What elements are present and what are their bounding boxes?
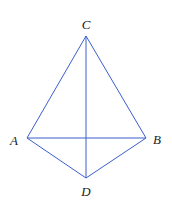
label-point-d: D <box>81 185 90 198</box>
segment-bd <box>86 138 146 178</box>
label-point-a: A <box>10 134 18 147</box>
segment-cb <box>86 36 146 138</box>
label-point-b: B <box>153 133 161 146</box>
segment-ca <box>27 36 86 138</box>
geometry-diagram: C A B D <box>0 0 172 213</box>
segment-ad <box>27 138 86 178</box>
diagram-lines <box>0 0 172 213</box>
label-point-c: C <box>82 18 91 31</box>
